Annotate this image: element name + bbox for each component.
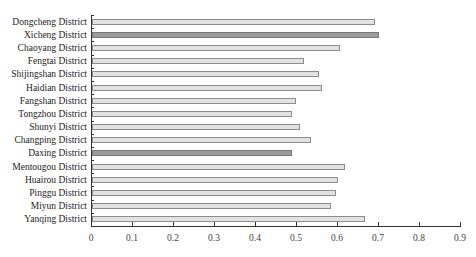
y-tick	[91, 28, 94, 29]
y-tick	[91, 55, 94, 56]
bar	[92, 137, 311, 143]
category-label: Fangshan District	[20, 96, 87, 106]
bar	[92, 190, 336, 196]
bar	[92, 150, 292, 156]
x-tick	[419, 222, 420, 226]
category-label: Pinggu District	[29, 188, 87, 198]
x-tick-label: 0.2	[158, 233, 188, 243]
x-tick-label: 0.3	[199, 233, 229, 243]
x-axis	[91, 226, 461, 227]
x-tick-label: 0.7	[363, 233, 393, 243]
bar	[92, 58, 304, 64]
y-tick	[91, 121, 94, 122]
category-label: Daxing District	[28, 148, 87, 158]
y-tick	[91, 94, 94, 95]
bar	[92, 71, 319, 77]
y-tick	[91, 186, 94, 187]
category-label: Xicheng District	[24, 30, 87, 40]
category-label: Shijingshan District	[11, 69, 87, 79]
x-tick-label: 0.4	[240, 233, 270, 243]
bar	[92, 32, 379, 38]
y-tick	[91, 15, 94, 16]
category-label: Tongzhou District	[18, 109, 87, 119]
y-tick	[91, 107, 94, 108]
y-tick	[91, 160, 94, 161]
x-tick-label: 0	[76, 233, 106, 243]
category-label: Mentougou District	[12, 162, 87, 172]
x-tick	[337, 222, 338, 226]
x-tick	[255, 222, 256, 226]
y-tick	[91, 134, 94, 135]
x-tick-label: 0.8	[404, 233, 434, 243]
y-tick	[91, 41, 94, 42]
x-tick	[173, 222, 174, 226]
bar	[92, 45, 340, 51]
bar	[92, 111, 292, 117]
x-tick	[214, 222, 215, 226]
y-tick	[91, 68, 94, 69]
bar	[92, 85, 322, 91]
category-label: Changping District	[14, 135, 87, 145]
bar	[92, 177, 338, 183]
category-label: Fengtai District	[28, 56, 87, 66]
category-label: Shunyi District	[29, 122, 87, 132]
y-tick	[91, 147, 94, 148]
bar	[92, 98, 296, 104]
x-tick	[296, 222, 297, 226]
category-label: Dongcheng District	[12, 17, 87, 27]
bar	[92, 19, 375, 25]
y-tick	[91, 81, 94, 82]
x-tick-label: 0.5	[281, 233, 311, 243]
x-tick-label: 0.6	[322, 233, 352, 243]
x-tick	[378, 222, 379, 226]
y-tick	[91, 173, 94, 174]
category-label: Miyun District	[31, 201, 87, 211]
y-tick	[91, 213, 94, 214]
category-label: Haidian District	[26, 83, 87, 93]
bar	[92, 203, 331, 209]
category-label: Huairou District	[25, 175, 87, 185]
x-tick-label: 0.1	[117, 233, 147, 243]
x-tick	[460, 222, 461, 226]
bar	[92, 124, 300, 130]
y-tick	[91, 200, 94, 201]
horizontal-bar-chart: Dongcheng DistrictXicheng DistrictChaoya…	[0, 0, 476, 257]
bar	[92, 164, 345, 170]
x-tick-label: 0.9	[445, 233, 475, 243]
category-label: Chaoyang District	[18, 43, 87, 53]
category-label: Yanqing District	[24, 214, 87, 224]
x-tick	[132, 222, 133, 226]
